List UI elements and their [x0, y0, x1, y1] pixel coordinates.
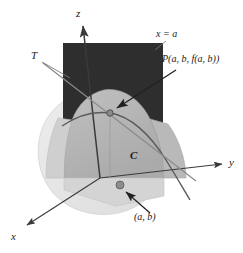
curve-label: C [130, 150, 137, 161]
point-ab-label: (a, b) [134, 212, 156, 222]
point-ab-marker [116, 181, 124, 189]
point-P-marker [107, 110, 113, 116]
axis-label-x: x [11, 231, 16, 242]
math-diagram-figure: z y x T C x = a P(a, b, f(a, b)) (a, b) [0, 0, 243, 253]
diagram-canvas [0, 0, 243, 253]
plane-label: x = a [156, 29, 177, 39]
axis-label-z: z [76, 8, 80, 19]
point-P-label: P(a, b, f(a, b)) [162, 54, 219, 64]
axis-label-y: y [229, 157, 234, 168]
tangent-line-label: T [31, 50, 37, 61]
